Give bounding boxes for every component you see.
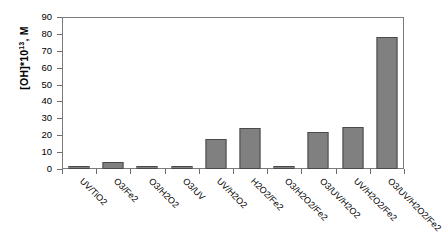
x-axis-tick-mark xyxy=(404,169,405,174)
y-axis-title-exponent: 13 xyxy=(18,42,25,50)
x-axis-tick-label: H2O2/Fe2 xyxy=(249,176,285,212)
y-axis-title-base: [OH]*10 xyxy=(18,50,30,90)
x-axis-tick-mark xyxy=(267,169,268,174)
y-axis-tick-label: 10 xyxy=(41,146,52,157)
x-axis-tick-mark xyxy=(301,169,302,174)
x-axis-tick-mark xyxy=(96,169,97,174)
x-axis-tick-mark xyxy=(130,169,131,174)
bar xyxy=(69,166,90,169)
x-axis-tick-label: O3/UV xyxy=(181,176,207,202)
bar xyxy=(376,37,397,169)
bar-slot xyxy=(301,17,335,169)
bars-layer xyxy=(62,17,404,169)
bar-slot xyxy=(199,17,233,169)
x-axis-tick-mark xyxy=(165,169,166,174)
bar-slot xyxy=(336,17,370,169)
y-axis-title-suffix: , M xyxy=(18,26,30,41)
x-axis-tick-mark xyxy=(62,169,63,174)
y-axis-title: [OH]*1013, M xyxy=(18,0,30,118)
x-axis-tick-mark xyxy=(233,169,234,174)
bar xyxy=(240,128,261,169)
x-axis-tick-mark xyxy=(370,169,371,174)
y-axis-tick-label: 50 xyxy=(41,79,52,90)
x-axis-tick-mark xyxy=(199,169,200,174)
x-axis-tick-label: UV/H2O2 xyxy=(215,176,249,210)
bar xyxy=(137,166,158,169)
y-axis-tick-label: 70 xyxy=(41,45,52,56)
bar xyxy=(342,127,363,169)
bar-slot xyxy=(96,17,130,169)
x-axis-tick-label: O3/H2O2 xyxy=(146,176,180,210)
x-axis-tick-label: O3/UV/H2O2/Fe2 xyxy=(386,176,443,233)
y-axis-tick-label: 80 xyxy=(41,28,52,39)
y-axis-tick-label: 90 xyxy=(41,11,52,22)
bar-slot xyxy=(62,17,96,169)
bar-slot xyxy=(267,17,301,169)
bar xyxy=(103,162,124,169)
y-axis-tick-label: 20 xyxy=(41,129,52,140)
y-axis-tick-label: 40 xyxy=(41,95,52,106)
bar-slot xyxy=(370,17,404,169)
x-axis-tick-label: O3/Fe2 xyxy=(112,176,140,204)
bar xyxy=(308,132,329,169)
y-axis-tick-label: 0 xyxy=(47,163,52,174)
x-axis-tick-label: UV/TiO2 xyxy=(78,176,109,207)
bar-slot xyxy=(233,17,267,169)
bar xyxy=(171,166,192,169)
x-axis-tick-mark xyxy=(336,169,337,174)
bar-slot xyxy=(165,17,199,169)
y-axis-tick-label: 60 xyxy=(41,62,52,73)
bar xyxy=(274,166,295,169)
bar xyxy=(205,139,226,169)
y-axis-tick-label: 30 xyxy=(41,112,52,123)
bar-slot xyxy=(130,17,164,169)
